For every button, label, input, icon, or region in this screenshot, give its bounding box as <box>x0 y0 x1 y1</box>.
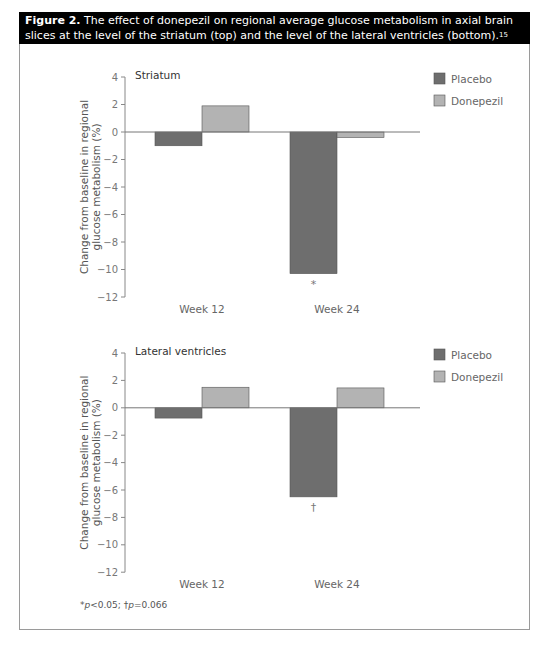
lateral-ventricles-chart: 420−2−4−6−8−10−12Change from baseline in… <box>78 345 503 590</box>
bar-placebo-week-12 <box>155 408 202 418</box>
bar-donepezil-week-12 <box>202 106 249 132</box>
bar-donepezil-week-24 <box>337 132 384 138</box>
y-tick-label: −2 <box>103 154 118 165</box>
legend-swatch-placebo <box>434 349 445 360</box>
chart-title: Striatum <box>135 69 180 81</box>
y-tick-label: −12 <box>97 567 118 578</box>
legend-swatch-donepezil <box>434 95 445 106</box>
y-tick-label: −4 <box>103 457 118 468</box>
y-tick-label: −2 <box>103 430 118 441</box>
y-tick-label: 4 <box>112 72 118 83</box>
x-category-label: Week 24 <box>314 578 360 590</box>
y-tick-label: −6 <box>103 485 118 496</box>
y-tick-label: 0 <box>112 127 118 138</box>
legend-label: Placebo <box>451 73 492 85</box>
x-category-label: Week 12 <box>179 578 224 590</box>
y-tick-label: −6 <box>103 209 118 220</box>
y-axis-label: Change from baseline in regionalglucose … <box>78 100 102 274</box>
bar-donepezil-week-12 <box>202 387 249 408</box>
legend-label: Donepezil <box>451 95 503 107</box>
y-tick-label: −4 <box>103 182 118 193</box>
x-category-label: Week 12 <box>179 303 224 315</box>
footnote: *p<0.05; †p=0.066 <box>80 600 167 610</box>
y-tick-label: −10 <box>97 539 118 550</box>
x-category-label: Week 24 <box>314 303 360 315</box>
bar-placebo-week-12 <box>155 132 202 146</box>
chart-area: 420−2−4−6−8−10−12Change from baseline in… <box>0 0 546 650</box>
y-tick-label: −10 <box>97 264 118 275</box>
chart-title: Lateral ventricles <box>135 345 226 357</box>
legend-label: Placebo <box>451 349 492 361</box>
bar-placebo-week-24 <box>290 408 337 497</box>
y-tick-label: 2 <box>112 375 118 386</box>
y-axis-label: Change from baseline in regionalglucose … <box>78 376 102 550</box>
y-tick-label: −8 <box>103 512 118 523</box>
legend-label: Donepezil <box>451 371 503 383</box>
striatum-chart: 420−2−4−6−8−10−12Change from baseline in… <box>78 69 503 315</box>
y-tick-label: 2 <box>112 99 118 110</box>
bar-donepezil-week-24 <box>337 388 384 408</box>
legend-swatch-donepezil <box>434 371 445 382</box>
bar-placebo-week-24 <box>290 132 337 274</box>
y-tick-label: 4 <box>112 348 118 359</box>
legend-swatch-placebo <box>434 73 445 84</box>
significance-marker: * <box>311 278 317 291</box>
y-tick-label: −8 <box>103 237 118 248</box>
y-tick-label: −12 <box>97 292 118 303</box>
significance-marker: † <box>311 501 317 514</box>
y-tick-label: 0 <box>112 402 118 413</box>
